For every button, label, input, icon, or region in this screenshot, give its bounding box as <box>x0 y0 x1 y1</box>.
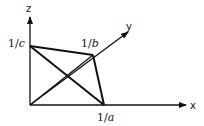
y-axis-label: y <box>126 21 132 32</box>
intercept-c-label: 1/c <box>8 37 25 50</box>
miller-plane-diagram: z x y 1/c 1/b 1/a <box>0 0 204 126</box>
edge-origin-b <box>30 55 93 105</box>
intercept-a-label: 1/a <box>97 111 114 124</box>
z-axis-label: z <box>26 3 31 14</box>
intercept-b-label: 1/b <box>81 37 99 50</box>
x-axis-label: x <box>190 100 196 111</box>
